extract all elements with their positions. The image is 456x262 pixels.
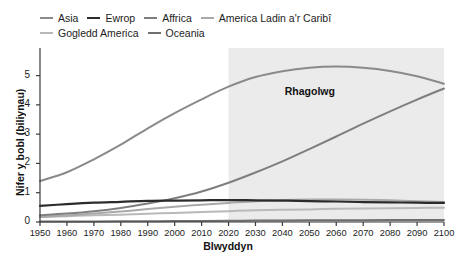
- x-tick-label-2010: 2010: [188, 228, 216, 238]
- y-tick-label-1: 1: [18, 186, 30, 197]
- annotation-rhagolwg: Rhagolwg: [285, 85, 335, 97]
- x-tick-label-1950: 1950: [26, 228, 54, 238]
- y-tick-label-0: 0: [18, 215, 30, 226]
- x-tick-label-2090: 2090: [403, 228, 431, 238]
- x-tick-label-1980: 1980: [107, 228, 135, 238]
- x-tick-label-2080: 2080: [376, 228, 404, 238]
- x-axis-title: Blwyddyn: [0, 240, 456, 252]
- x-tick-label-2070: 2070: [349, 228, 377, 238]
- plot-area: [0, 0, 456, 262]
- x-tick-label-2000: 2000: [161, 228, 189, 238]
- x-tick-label-1970: 1970: [80, 228, 108, 238]
- x-tick-label-2060: 2060: [322, 228, 350, 238]
- x-tick-label-2020: 2020: [215, 228, 243, 238]
- x-tick-label-2040: 2040: [268, 228, 296, 238]
- x-tick-label-2100: 2100: [430, 228, 456, 238]
- population-projection-chart: Asia Ewrop Affrica America Ladin a'r Car…: [0, 0, 456, 262]
- x-tick-label-1960: 1960: [53, 228, 81, 238]
- y-tick-label-2: 2: [18, 156, 30, 167]
- y-tick-label-5: 5: [18, 69, 30, 80]
- x-tick-label-2050: 2050: [295, 228, 323, 238]
- y-tick-label-4: 4: [18, 98, 30, 109]
- x-tick-label-2030: 2030: [241, 228, 269, 238]
- y-tick-label-3: 3: [18, 127, 30, 138]
- x-tick-label-1990: 1990: [134, 228, 162, 238]
